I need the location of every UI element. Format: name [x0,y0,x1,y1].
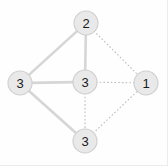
graph-node-center[interactable]: 3 [73,70,97,94]
graph-edge-center-right [96,82,135,83]
graph-edge-top-right [94,31,138,75]
nodes-layer: 23313 [8,11,158,153]
graph-node-left[interactable]: 3 [8,71,32,95]
graph-edge-bottom-right [93,91,138,134]
node-label-top: 2 [82,16,89,31]
graph-edge-left-top [28,30,78,75]
graph-figure: 23313 [0,0,168,166]
graph-canvas: 23313 [0,0,168,166]
node-label-right: 1 [142,76,149,91]
node-label-center: 3 [81,75,88,90]
graph-node-bottom[interactable]: 3 [73,129,97,153]
graph-node-right[interactable]: 1 [134,71,158,95]
node-label-bottom: 3 [81,134,88,149]
graph-edge-left-bottom [28,90,77,133]
graph-node-top[interactable]: 2 [74,11,98,35]
node-label-left: 3 [16,76,23,91]
graph-edge-top-center [85,34,86,71]
graph-edge-left-center [31,82,74,83]
